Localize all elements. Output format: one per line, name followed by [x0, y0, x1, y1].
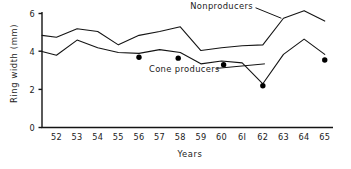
y-tick-label-2: 2: [29, 85, 35, 95]
y-tick-label-6: 6: [29, 9, 35, 19]
series-line-nonproducers: [42, 11, 325, 51]
y-tick-label-4: 4: [29, 47, 35, 57]
series-label-nonproducers: Nonproducers: [190, 1, 253, 11]
y-axis-label-text: Ring width (mm): [9, 24, 19, 103]
data-point-marker-1: [176, 55, 181, 60]
y-tick-label-0: 0: [29, 123, 35, 133]
x-axis-tick-labels: 5253545556575859606I62636465: [51, 132, 330, 142]
x-tick-label-52: 52: [51, 132, 62, 142]
x-tick-label-64: 64: [299, 132, 310, 142]
data-point-marker-3: [260, 83, 265, 88]
x-tick-label-65: 65: [319, 132, 330, 142]
x-tick-label-54: 54: [92, 132, 103, 142]
x-tick-label-55: 55: [113, 132, 124, 142]
x-axis-label: Years: [176, 149, 202, 159]
data-point-marker-2: [221, 62, 226, 67]
y-axis-tick-labels: 6 4 2 0: [29, 9, 35, 133]
series-line-cone-producers: [42, 39, 325, 84]
ring-width-chart: Ring width (mm) 6 4 2 0 5253545556575859…: [0, 0, 351, 169]
y-axis-label: Ring width (mm): [9, 24, 19, 103]
chart-canvas: Ring width (mm) 6 4 2 0 5253545556575859…: [0, 0, 351, 169]
data-point-marker-4: [322, 57, 327, 62]
leader-line-nonproducers: [256, 8, 282, 19]
x-tick-label-56: 56: [133, 132, 144, 142]
series-label-cone-producers: Cone producers: [149, 64, 220, 74]
x-tick-label-6I: 6I: [238, 132, 246, 142]
x-tick-label-59: 59: [195, 132, 206, 142]
x-tick-label-57: 57: [154, 132, 165, 142]
x-tick-label-60: 60: [216, 132, 227, 142]
x-tick-label-63: 63: [278, 132, 289, 142]
x-tick-label-58: 58: [175, 132, 186, 142]
x-tick-label-53: 53: [72, 132, 83, 142]
data-point-marker-0: [136, 55, 141, 60]
x-tick-label-62: 62: [257, 132, 268, 142]
